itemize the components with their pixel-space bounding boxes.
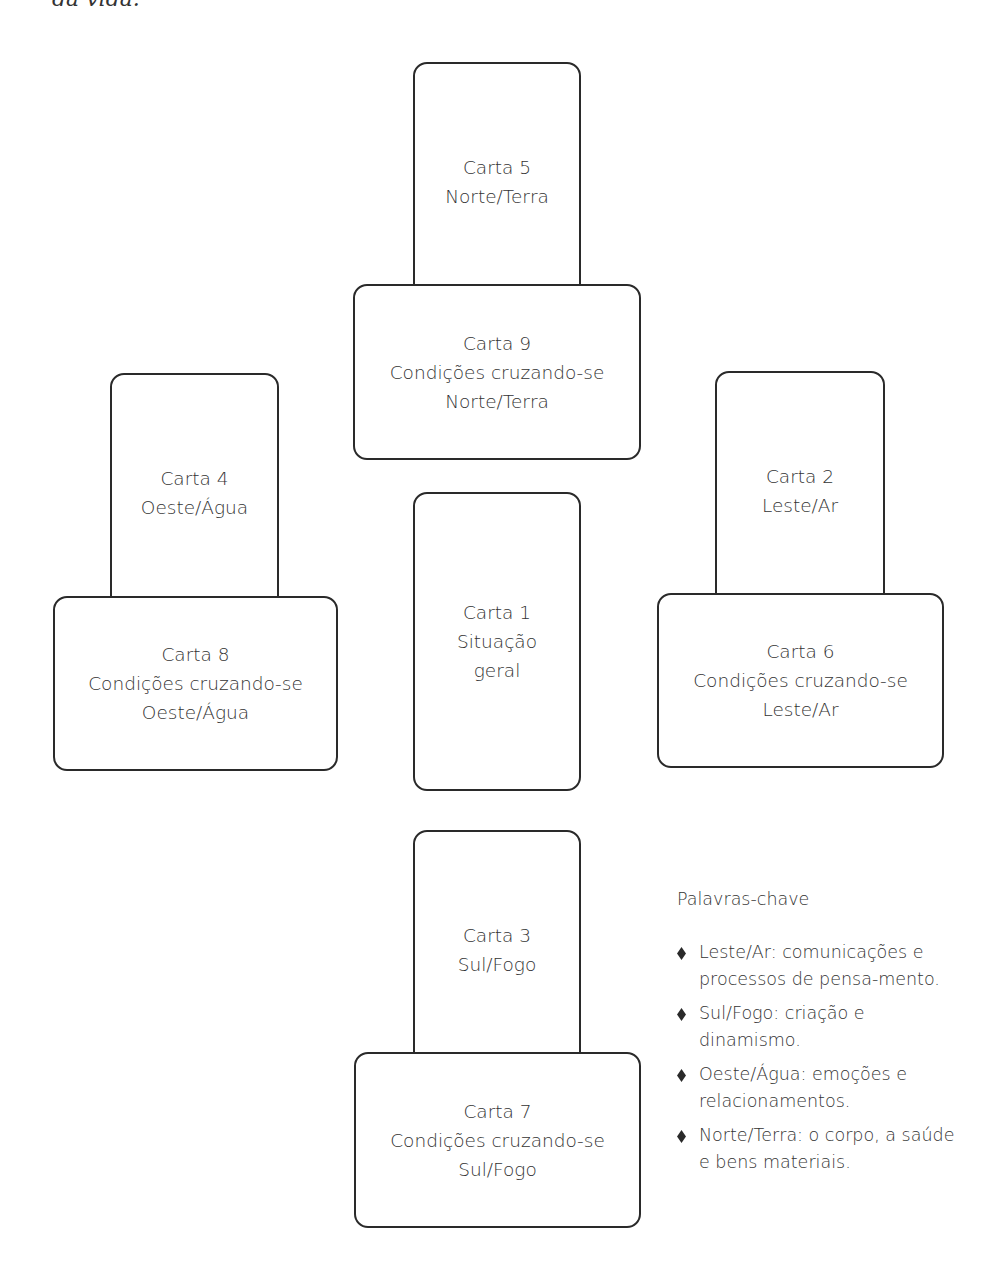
legend-item-sul-fogo: Sul/Fogo: criação e dinamismo.: [677, 1000, 967, 1054]
diamond-bullet-icon: [677, 1130, 686, 1143]
card-label: Situação: [457, 627, 537, 656]
card-label: Norte/Terra: [445, 387, 549, 416]
card-title: Carta 1: [463, 598, 531, 627]
card-label: Sul/Fogo: [458, 1155, 537, 1184]
top-text-fragment: da vida.: [52, 0, 140, 11]
card-label: Condições cruzando-se: [88, 669, 303, 698]
legend-list: Leste/Ar: comunicações e processos de pe…: [677, 939, 967, 1176]
legend-item-leste-ar: Leste/Ar: comunicações e processos de pe…: [677, 939, 967, 993]
card-label: Oeste/Água: [142, 698, 249, 727]
card-carta-4: Carta 4Oeste/Água: [110, 373, 279, 613]
card-carta-7: Carta 7Condições cruzando-seSul/Fogo: [354, 1052, 641, 1228]
keywords-legend: Palavras-chave Leste/Ar: comunicações e …: [677, 886, 967, 1183]
legend-item-text: Leste/Ar: comunicações e processos de pe…: [699, 942, 940, 989]
card-label: Condições cruzando-se: [390, 1126, 605, 1155]
diamond-bullet-icon: [677, 1008, 686, 1021]
card-carta-8: Carta 8Condições cruzando-seOeste/Água: [53, 596, 338, 771]
card-title: Carta 5: [463, 153, 531, 182]
card-label: geral: [474, 656, 521, 685]
legend-item-oeste-agua: Oeste/Água: emoções e relacionamentos.: [677, 1061, 967, 1115]
card-carta-2: Carta 2Leste/Ar: [715, 371, 885, 611]
card-label: Condições cruzando-se: [693, 666, 908, 695]
diamond-bullet-icon: [677, 947, 686, 960]
card-title: Carta 2: [766, 462, 834, 491]
card-label: Condições cruzando-se: [390, 358, 605, 387]
legend-item-norte-terra: Norte/Terra: o corpo, a saúde e bens mat…: [677, 1122, 967, 1176]
legend-item-text: Norte/Terra: o corpo, a saúde e bens mat…: [699, 1125, 954, 1172]
diamond-bullet-icon: [677, 1069, 686, 1082]
card-label: Norte/Terra: [445, 182, 549, 211]
card-carta-5: Carta 5Norte/Terra: [413, 62, 581, 302]
card-label: Oeste/Água: [141, 493, 248, 522]
card-title: Carta 7: [463, 1097, 531, 1126]
legend-item-text: Sul/Fogo: criação e dinamismo.: [699, 1003, 865, 1050]
card-label: Sul/Fogo: [458, 950, 537, 979]
card-carta-1: Carta 1Situaçãogeral: [413, 492, 581, 791]
legend-item-text: Oeste/Água: emoções e relacionamentos.: [699, 1064, 907, 1111]
card-title: Carta 3: [463, 921, 531, 950]
card-title: Carta 4: [160, 464, 228, 493]
card-label: Leste/Ar: [762, 695, 838, 724]
legend-title: Palavras-chave: [677, 886, 967, 912]
card-carta-3: Carta 3Sul/Fogo: [413, 830, 581, 1070]
card-carta-9: Carta 9Condições cruzando-seNorte/Terra: [353, 284, 641, 460]
card-carta-6: Carta 6Condições cruzando-seLeste/Ar: [657, 593, 944, 768]
card-title: Carta 8: [161, 640, 229, 669]
card-title: Carta 9: [463, 329, 531, 358]
card-label: Leste/Ar: [762, 491, 838, 520]
card-title: Carta 6: [766, 637, 834, 666]
